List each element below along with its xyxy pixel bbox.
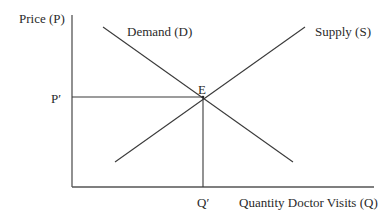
quantity-level-label: Q′ — [197, 195, 209, 210]
y-axis-label: Price (P) — [19, 11, 65, 26]
equilibrium-label: E — [198, 82, 206, 97]
price-level-label: P′ — [51, 91, 61, 106]
supply-demand-diagram: Price (P) Demand (D) Supply (S) E P′ Q′ … — [0, 0, 391, 217]
supply-curve — [115, 27, 305, 162]
x-axis-label: Quantity Doctor Visits (Q) — [239, 195, 378, 210]
demand-label: Demand (D) — [127, 24, 192, 39]
supply-label: Supply (S) — [315, 24, 371, 39]
